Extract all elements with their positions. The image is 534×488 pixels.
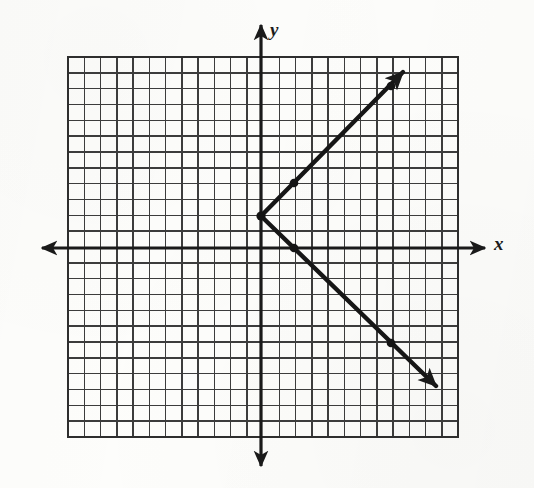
marker-vertex	[256, 211, 265, 220]
figure-page: y x	[0, 0, 534, 488]
axes	[42, 25, 485, 466]
marker-x-intercept	[290, 244, 299, 253]
marker-rising-near-arrow	[387, 82, 396, 91]
marker-falling-point	[387, 339, 396, 348]
marker-rising-point	[290, 179, 299, 188]
coordinate-plane-figure	[0, 0, 534, 488]
y-axis-label: y	[270, 20, 278, 39]
rising-ray	[261, 72, 403, 216]
x-axis-label: x	[494, 234, 504, 253]
point-markers	[256, 82, 395, 348]
